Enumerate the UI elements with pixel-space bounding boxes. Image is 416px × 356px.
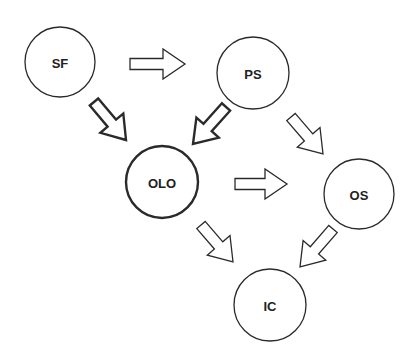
nodes-layer: SFPSOLOOSIC [25,27,394,341]
arrow-olo-to-ic-icon [197,221,233,262]
node-label: PS [244,67,262,82]
node-label: OS [350,188,369,203]
flow-diagram: SFPSOLOOSIC [0,0,416,356]
arrow-ps-to-os-icon [287,113,323,154]
node-sf: SF [25,27,95,97]
node-label: IC [264,299,278,314]
arrow-sf-to-olo-icon [90,99,126,141]
arrow-os-to-ic-icon [300,225,337,267]
node-ic: IC [234,269,306,341]
node-label: OLO [148,176,176,191]
edges-layer [90,49,337,267]
node-olo: OLO [126,146,198,218]
node-label: SF [52,56,69,71]
node-ps: PS [217,37,289,109]
arrow-olo-to-os-icon [235,169,287,199]
node-os: OS [324,159,394,229]
arrow-sf-to-ps-icon [130,49,185,79]
arrow-ps-to-olo-icon [193,103,230,144]
